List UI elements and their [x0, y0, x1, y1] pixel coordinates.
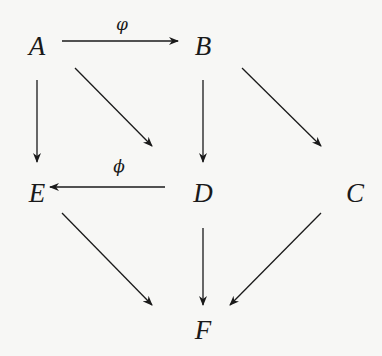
node-c: C	[346, 180, 364, 207]
node-b: B	[195, 33, 212, 60]
arrow-c-to-f	[230, 213, 321, 305]
edge-label-varphi: φ	[116, 16, 128, 33]
arrow-b-to-c	[242, 68, 321, 146]
node-d: D	[193, 180, 213, 207]
arrow-a-to-d	[75, 68, 152, 146]
edge-label-phi: ϕ	[113, 158, 125, 175]
node-a: A	[29, 33, 46, 60]
node-f: F	[195, 317, 212, 344]
arrow-e-to-f	[62, 213, 152, 305]
arrows-layer	[0, 0, 382, 356]
node-e: E	[29, 180, 46, 207]
commutative-diagram: A B E D C F φ ϕ	[0, 0, 382, 356]
